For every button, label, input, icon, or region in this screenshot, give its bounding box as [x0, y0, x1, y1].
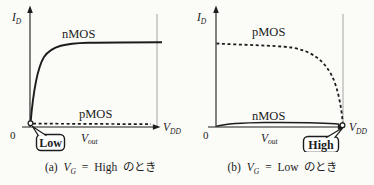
panel-a: ID nMOS pMOS 0 Vout VDD Low (a) VG = Hig… — [0, 0, 187, 179]
operating-point-marker — [340, 123, 345, 128]
nmos-label: nMOS — [252, 109, 285, 123]
panel-b: ID pMOS nMOS 0 Vout VDD High (b) VG = Lo… — [187, 0, 374, 179]
caption-a-variable: VG — [64, 161, 76, 173]
operating-point-marker — [28, 121, 33, 126]
caption-b-value: Low — [278, 161, 299, 173]
caption-a-suffix: のとき — [123, 161, 156, 173]
nmos-label: nMOS — [62, 27, 95, 41]
origin-label: 0 — [10, 129, 16, 141]
caption-a-index: (a) — [45, 161, 58, 173]
vdd-label: VDD — [163, 121, 181, 136]
panel-a-plot: ID nMOS pMOS 0 Vout VDD Low — [0, 0, 187, 152]
y-axis-label: ID — [196, 11, 207, 26]
caption-b-suffix: のとき — [304, 161, 337, 173]
callout-high-label: High — [308, 138, 334, 152]
panel-a-caption: (a) VG = High のとき — [7, 160, 194, 179]
y-axis-arrow-icon — [213, 6, 219, 14]
y-axis-label: ID — [11, 11, 22, 26]
panel-b-plot: ID pMOS nMOS 0 Vout VDD High — [187, 0, 374, 152]
y-axis-arrow-icon — [27, 6, 33, 14]
caption-a-equals: = — [82, 161, 89, 173]
panel-b-caption: (b) VG = Low のとき — [189, 160, 374, 179]
callout-low-label: Low — [39, 136, 62, 150]
caption-b-equals: = — [265, 161, 272, 173]
callout-high-pointer-icon — [326, 128, 343, 138]
callout-low-pointer-icon — [33, 127, 47, 136]
callout-low: Low — [33, 127, 65, 151]
cmos-inverter-current-figure: ID nMOS pMOS 0 Vout VDD Low (a) VG = Hig… — [0, 0, 374, 179]
pmos-label: pMOS — [252, 25, 285, 39]
vdd-label: VDD — [349, 121, 367, 136]
caption-b-index: (b) — [228, 161, 241, 173]
x-axis-label: Vout — [261, 132, 279, 147]
caption-b-variable: VG — [247, 161, 259, 173]
origin-label: 0 — [203, 129, 209, 141]
caption-a-value: High — [94, 161, 117, 173]
pmos-label: pMOS — [79, 107, 112, 121]
x-axis-label: Vout — [81, 132, 99, 147]
callout-high: High — [304, 128, 343, 152]
nmos-curve — [217, 123, 340, 127]
pmos-curve — [33, 124, 151, 125]
